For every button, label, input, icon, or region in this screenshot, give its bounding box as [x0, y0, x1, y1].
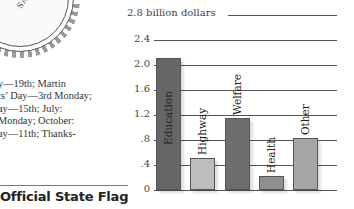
bar-label-education: Education	[162, 91, 174, 145]
gridline	[154, 40, 337, 41]
bar-other	[293, 138, 318, 189]
budget-bar-chart: 2.8 billion dollars 0.4.81.21.62.02.4Edu…	[0, 0, 354, 209]
y-tick-label: 2.4	[118, 33, 150, 44]
y-tick-label: .8	[118, 133, 150, 144]
y-tick-label: 1.2	[118, 108, 150, 119]
y-tick-label: 1.6	[118, 83, 150, 94]
bar-welfare	[225, 118, 250, 190]
y-tick-label: .4	[118, 158, 150, 169]
bar-label-welfare: Welfare	[231, 74, 243, 115]
y-tick-label: 2.0	[118, 58, 150, 69]
gridline	[228, 15, 337, 16]
bar-label-health: Health	[265, 137, 277, 173]
y-axis-unit-label: 2.8 billion dollars	[127, 7, 216, 18]
y-tick-label: 0	[118, 183, 150, 194]
gridline	[154, 65, 337, 66]
bar-label-other: Other	[299, 104, 311, 135]
bar-label-highway: Highway	[196, 108, 208, 155]
bar-highway	[190, 158, 215, 189]
gridline	[154, 90, 337, 91]
gridline	[154, 190, 337, 191]
bar-health	[259, 176, 284, 190]
